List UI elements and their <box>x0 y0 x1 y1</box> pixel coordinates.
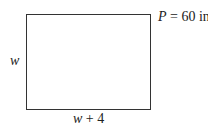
length-variable: w <box>73 111 82 126</box>
perimeter-variable: P <box>158 9 167 24</box>
perimeter-value: = 60 in <box>167 9 208 24</box>
width-label: w <box>10 53 19 69</box>
perimeter-label: P = 60 in <box>158 9 208 25</box>
length-label: w + 4 <box>73 111 104 127</box>
length-offset: + 4 <box>82 111 104 126</box>
rectangle-shape <box>26 14 151 110</box>
